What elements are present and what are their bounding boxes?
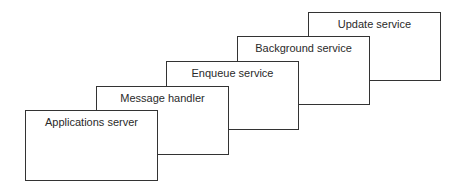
update-service-label: Update service (309, 18, 440, 30)
background-service-label: Background service (238, 42, 369, 54)
enqueue-service-label: Enqueue service (167, 67, 298, 79)
applications-server-label: Applications server (26, 116, 157, 128)
message-handler-label: Message handler (97, 92, 228, 104)
applications-server-box: Applications server (25, 110, 158, 181)
